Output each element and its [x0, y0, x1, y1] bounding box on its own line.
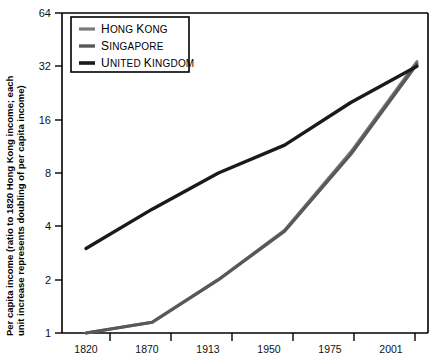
x-tick-label: 1913 [196, 343, 220, 355]
x-tick-label: 1975 [318, 343, 342, 355]
x-tick-label: 2001 [379, 343, 403, 355]
x-tick-label: 1820 [74, 343, 98, 355]
x-tick-label: 1950 [257, 343, 281, 355]
y-axis-label-line2: unit increase represents doubling of per… [15, 85, 26, 336]
y-axis-label-line1: Per capita income (ratio to 1820 Hong Ko… [4, 76, 15, 336]
y-tick-label: 2 [45, 274, 51, 286]
legend: HONG KONG SINGAPORE UNITED KINGDOM [71, 17, 194, 72]
legend-label-hong-kong: HONG KONG [101, 22, 168, 36]
y-tick-label: 8 [45, 167, 51, 179]
y-tick-label: 64 [39, 7, 51, 19]
chart-container: Per capita income (ratio to 1820 Hong Ko… [0, 0, 447, 364]
y-axis-label: Per capita income (ratio to 1820 Hong Ko… [4, 76, 26, 336]
legend-label-united-kingdom: UNITED KINGDOM [101, 56, 194, 70]
line-chart: Per capita income (ratio to 1820 Hong Ko… [0, 0, 447, 364]
legend-label-singapore: SINGAPORE [101, 39, 164, 53]
y-tick-label: 16 [39, 114, 51, 126]
y-tick-label: 1 [45, 327, 51, 339]
chart-background [0, 0, 447, 364]
y-tick-label: 32 [39, 60, 51, 72]
x-tick-label: 1870 [135, 343, 159, 355]
y-tick-label: 4 [45, 220, 51, 232]
